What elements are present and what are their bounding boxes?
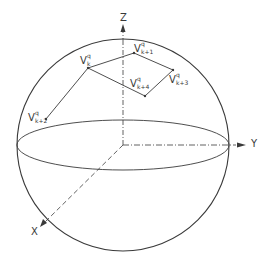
vertex-label-superscript: q (137, 76, 141, 82)
x-axis-label: X (31, 227, 38, 237)
vertex-label-k4: V q k+4 (130, 79, 137, 89)
vertex-label-k2: V q k+2 (28, 113, 35, 123)
vertex-label-superscript: q (176, 72, 180, 78)
vertex-label-k3: V q k+3 (169, 75, 176, 85)
z-axis-label: Z (120, 13, 127, 23)
vertex-label-base: V (130, 78, 137, 89)
z-axis-arrow-icon (121, 24, 126, 32)
vertex-point-k4 (144, 95, 146, 97)
y-axis-arrow-icon (237, 143, 246, 148)
vertex-label-subscript: k+3 (176, 80, 188, 86)
vertex-label-k: V q k (80, 56, 87, 66)
x-axis-arrow-icon (40, 219, 47, 227)
vertex-point-k3 (172, 69, 174, 71)
vertex-label-base: V (28, 112, 35, 123)
vertex-label-base: V (80, 55, 87, 66)
vertex-point-k (87, 67, 89, 69)
vertex-label-subscript: k+2 (35, 118, 47, 124)
vertex-path (46, 53, 173, 119)
vertex-label-subscript: k (87, 61, 90, 67)
vertex-label-superscript: q (141, 41, 145, 47)
y-axis-label: Y (251, 139, 257, 149)
vertex-label-superscript: q (35, 110, 39, 116)
vertex-label-base: V (134, 43, 141, 54)
sphere-diagram (0, 0, 278, 257)
vertex-label-k1: V q k+1 (134, 44, 141, 54)
vertex-label-subscript: k+4 (137, 84, 149, 90)
x-axis (45, 145, 123, 222)
vertex-label-subscript: k+1 (141, 49, 153, 55)
vertex-label-superscript: q (87, 53, 91, 59)
vertex-label-base: V (169, 74, 176, 85)
